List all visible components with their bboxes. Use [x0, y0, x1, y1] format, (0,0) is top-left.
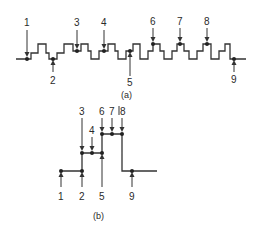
marker-b-5: 5: [99, 151, 105, 202]
diagram-b: 1 2 3 4 5: [58, 106, 157, 221]
label-a-9: 9: [231, 74, 237, 85]
marker-b-9: 9: [129, 169, 135, 202]
label-b-6: 6: [99, 106, 105, 117]
marker-a-9: 9: [231, 57, 237, 85]
marker-a-7: 7: [177, 16, 183, 46]
label-a-3: 3: [74, 17, 80, 28]
marker-a-6: 6: [150, 16, 156, 46]
label-b-2: 2: [79, 191, 85, 202]
marker-a-4: 4: [101, 17, 107, 53]
marker-a-2: 2: [50, 57, 56, 86]
label-a-7: 7: [177, 16, 183, 27]
label-a-6: 6: [150, 16, 156, 27]
label-b-3: 3: [79, 106, 85, 117]
label-b-9: 9: [129, 191, 135, 202]
marker-b-3: 3: [79, 106, 85, 155]
label-a-4: 4: [101, 17, 107, 28]
label-a-2: 2: [50, 75, 56, 86]
label-b-7: 7: [109, 106, 115, 117]
label-b-5: 5: [99, 191, 105, 202]
label-b-4: 4: [89, 125, 95, 136]
marker-a-8: 8: [204, 16, 210, 46]
marker-b-2: 2: [79, 169, 85, 202]
label-a-1: 1: [24, 17, 30, 28]
marker-b-7: 7: [109, 106, 115, 136]
label-b-1: 1: [58, 191, 64, 202]
marker-b-4: 4: [89, 125, 95, 155]
waveform-b: [61, 134, 157, 171]
marker-a-1: 1: [24, 17, 30, 61]
label-b-8: 8: [120, 106, 126, 117]
label-a-8: 8: [204, 16, 210, 27]
marker-b-1: 1: [58, 169, 64, 202]
caption-b: (b): [93, 211, 104, 221]
marker-a-3: 3: [74, 17, 80, 53]
label-a-5: 5: [127, 77, 133, 88]
marker-a-5: 5: [127, 49, 133, 88]
caption-a: (a): [121, 90, 132, 100]
diagram-canvas: 1 2 3 4 5: [0, 0, 260, 231]
diagram-a: 1 2 3 4 5: [16, 16, 246, 100]
marker-b-6: 6: [99, 106, 105, 136]
marker-b-8: 8: [119, 106, 126, 136]
